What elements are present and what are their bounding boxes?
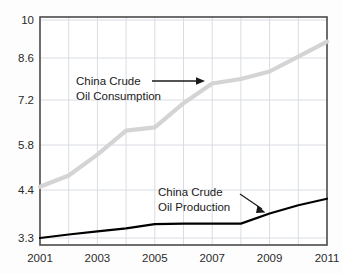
x-axis-tick-labels: 200120032005200720092011 <box>27 252 339 264</box>
x-axis-tick-label: 2001 <box>27 252 53 264</box>
y-axis-tick-label: 8.6 <box>18 52 34 64</box>
annotation-production-line1: China Crude <box>158 186 223 198</box>
x-axis-tick-label: 2011 <box>315 252 340 264</box>
x-axis-tick-label: 2007 <box>199 252 225 264</box>
y-axis-tick-labels: 108.67.25.84.43.3 <box>18 14 35 244</box>
y-axis-tick-label: 3.3 <box>18 232 34 244</box>
line-chart: 108.67.25.84.43.3 2001200320052007200920… <box>0 0 342 274</box>
y-axis-tick-label: 7.2 <box>18 94 34 106</box>
annotation-production-line2: Oil Production <box>158 201 230 213</box>
x-axis-tick-label: 2005 <box>142 252 168 264</box>
annotation-consumption-line1: China Crude <box>76 75 141 87</box>
annotation-consumption-line2: Oil Consumption <box>76 90 161 102</box>
y-axis-tick-label: 10 <box>21 14 34 26</box>
x-axis-tick-label: 2003 <box>85 252 111 264</box>
x-axis-tick-label: 2009 <box>257 252 283 264</box>
y-axis-tick-label: 4.4 <box>18 184 35 196</box>
chart-container: 108.67.25.84.43.3 2001200320052007200920… <box>0 0 342 274</box>
y-axis-tick-label: 5.8 <box>18 139 34 151</box>
